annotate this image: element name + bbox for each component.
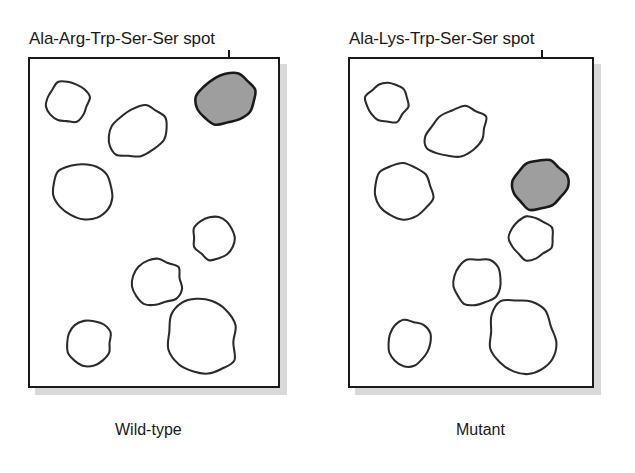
- spot-shape: [128, 255, 185, 309]
- spot-shape: [155, 288, 249, 385]
- mutant-caption: Mutant: [456, 420, 505, 439]
- peptide-spot: [509, 216, 553, 261]
- peptide-spot: [41, 76, 94, 128]
- spot-shape: [362, 79, 411, 128]
- spot-shape: [449, 254, 504, 308]
- peptide-spot: [368, 158, 439, 226]
- marked-spot-shape: [190, 66, 263, 130]
- peptide-spot: [67, 321, 111, 367]
- spot-shape: [41, 76, 94, 128]
- spot-shape: [193, 217, 234, 261]
- spot-shape: [67, 321, 111, 367]
- peptide-spot: [155, 288, 249, 385]
- spot-shape: [509, 216, 553, 261]
- mutant-spot-label: Ala-Lys-Trp-Ser-Ser spot: [349, 29, 534, 49]
- peptide-map-figure: Ala-Arg-Trp-Ser-Ser spot Wild-type Ala-L…: [0, 0, 635, 473]
- peptide-spot: [416, 97, 497, 170]
- spot-shape: [47, 157, 119, 225]
- spot-shape: [368, 158, 439, 226]
- spot-shape: [99, 97, 176, 167]
- peptide-spot: [47, 157, 119, 225]
- peptide-spot: [128, 255, 185, 309]
- mutant-gel-panel: [348, 57, 594, 388]
- peptide-spot: [99, 97, 176, 167]
- peptide-spot: [476, 288, 565, 385]
- wildtype-spot-layer: [30, 59, 278, 386]
- wildtype-caption: Wild-type: [115, 420, 182, 439]
- peptide-spot: [193, 217, 234, 261]
- marked-spot-shape: [506, 152, 575, 215]
- marked-peptide-spot: [190, 66, 263, 130]
- wildtype-spot-label: Ala-Arg-Trp-Ser-Ser spot: [29, 29, 215, 49]
- marked-peptide-spot: [506, 152, 575, 215]
- spot-shape: [476, 288, 565, 385]
- spot-shape: [416, 97, 497, 170]
- peptide-spot: [389, 320, 431, 367]
- spot-shape: [389, 320, 431, 367]
- wildtype-gel-panel: [28, 57, 280, 388]
- peptide-spot: [449, 254, 504, 308]
- mutant-spot-layer: [350, 59, 592, 386]
- peptide-spot: [362, 79, 411, 128]
